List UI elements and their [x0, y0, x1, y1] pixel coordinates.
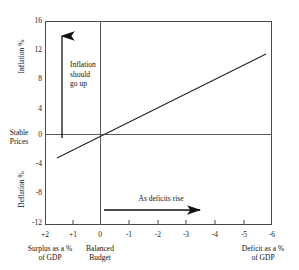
x-tick-p2: +2 [33, 231, 57, 239]
y-tick-m12: -12 [18, 219, 42, 227]
chart-figure: 16 12 8 4 0 -4 -8 -12 Inflation % Deflat… [0, 0, 299, 270]
stable-prices-label: Stable Prices [2, 128, 36, 146]
x-tick-m1: -1 [117, 231, 141, 239]
x-tick-m2: -2 [146, 231, 170, 239]
annotation-as-deficits-rise: As deficits rise [113, 194, 209, 204]
x-tick-m6: -6 [260, 231, 284, 239]
x-axis-caption-balanced-budget: Balanced Budget [72, 244, 128, 262]
x-tick-m5: -5 [232, 231, 256, 239]
y-tick-4: 4 [18, 105, 42, 113]
annotation-inflation-should-go-up: Inflation should go up [70, 60, 116, 89]
x-tick-m4: -4 [203, 231, 227, 239]
x-tick-m3: -3 [174, 231, 198, 239]
x-tick-0: 0 [88, 231, 112, 239]
y-axis-title-deflation: Deflation % [17, 160, 26, 220]
y-axis-title-inflation: Inflation % [17, 27, 26, 87]
x-tick-p1: +1 [61, 231, 85, 239]
y-tick-16: 16 [18, 17, 42, 25]
x-axis-caption-deficit: Deficit as a % of GDP [228, 244, 298, 262]
stable-prices-reference-line [45, 134, 272, 135]
balanced-budget-reference-line [100, 21, 101, 225]
